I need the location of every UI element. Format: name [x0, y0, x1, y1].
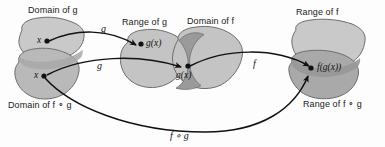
label-point-gx-top: g(x) [146, 39, 161, 49]
point-gx-middle [185, 63, 190, 68]
label-point-fgx: f(g(x)) [317, 63, 341, 73]
point-fgx [308, 65, 313, 70]
label-point-gx-middle: g(x) [176, 71, 191, 81]
point-gx-top [138, 41, 143, 46]
label-range-of-fog: Range of f ∘ g [303, 100, 362, 109]
label-arrow-fog: f ∘ g [170, 131, 189, 141]
label-point-x-top: x [37, 36, 41, 46]
figure-canvas: Domain of g Range of g Domain of f Range… [0, 0, 385, 147]
label-arrow-f: f [253, 59, 256, 69]
label-range-of-f: Range of f [296, 8, 339, 17]
point-x-top [44, 38, 49, 43]
point-x-bottom [41, 73, 46, 78]
label-point-x-bottom: x [34, 71, 38, 81]
label-domain-of-f: Domain of f [187, 17, 234, 26]
label-arrow-g-upper: g [101, 24, 106, 34]
label-range-of-g: Range of g [122, 18, 167, 27]
label-arrow-g-lower: g [97, 61, 102, 71]
blob-domain-of-fog [15, 48, 79, 99]
label-domain-of-fog: Domain of f ∘ g [8, 101, 72, 110]
label-domain-of-g: Domain of g [28, 6, 78, 15]
arrow-fog [45, 76, 308, 132]
